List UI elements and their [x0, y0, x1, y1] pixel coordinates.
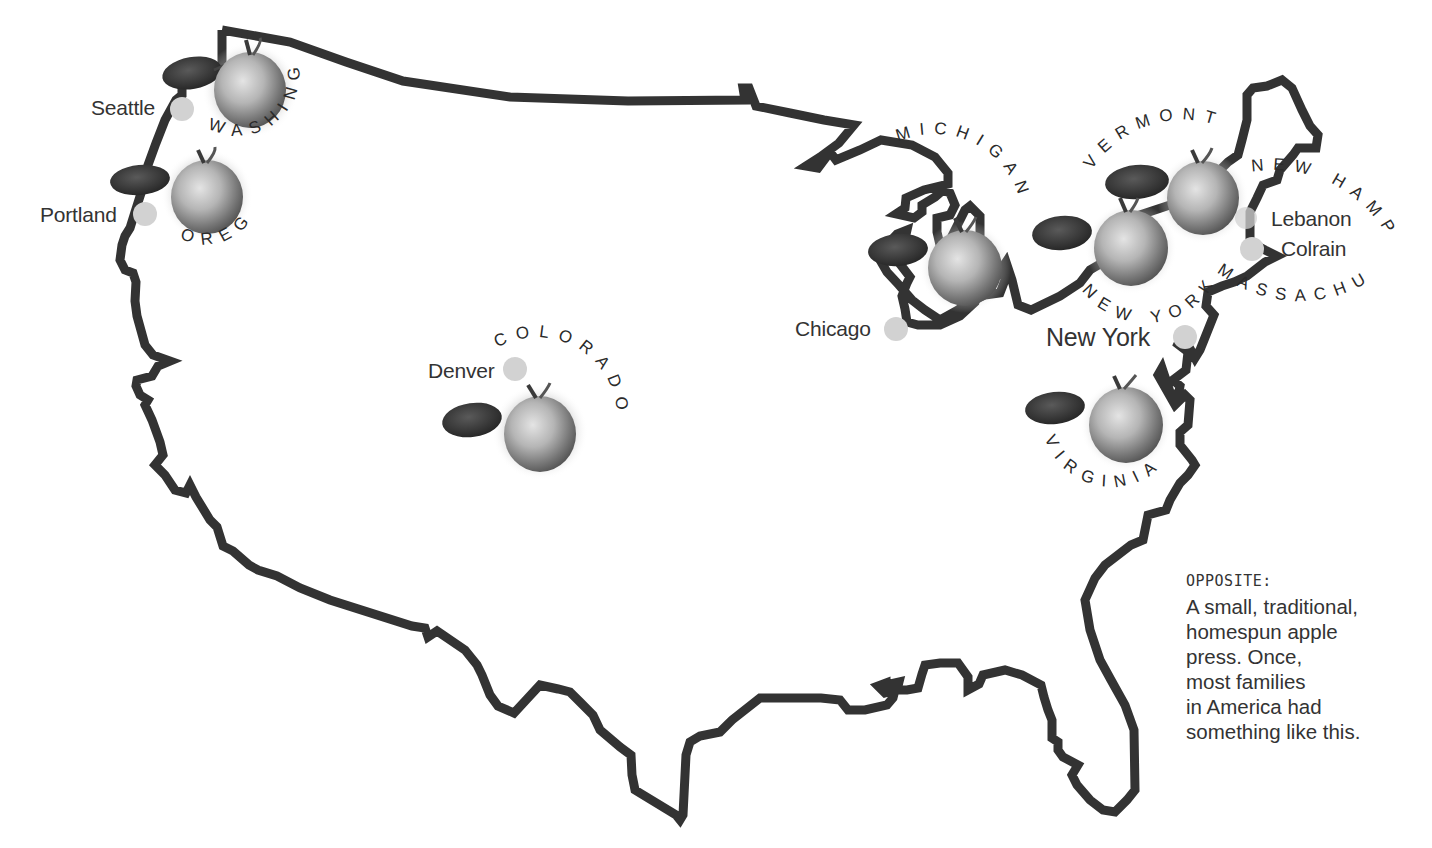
- city-label-seattle: Seattle: [91, 97, 155, 118]
- caption-line: in America had: [1186, 694, 1426, 719]
- city-label-lebanon: Lebanon: [1271, 208, 1351, 229]
- city-dot-chicago: [884, 317, 908, 341]
- caption-line: most families: [1186, 669, 1426, 694]
- apple-colorado: [440, 383, 588, 480]
- city-label-colrain: Colrain: [1281, 238, 1346, 259]
- caption-line: press. Once,: [1186, 644, 1426, 669]
- apple-michigan: [867, 217, 1011, 313]
- city-label-portland: Portland: [40, 204, 117, 225]
- city-dot-new-york: [1173, 325, 1197, 349]
- city-label-new-york: New York: [1046, 325, 1150, 350]
- caption-line: A small, traditional,: [1186, 594, 1426, 619]
- apple-new-york: [1031, 198, 1177, 294]
- city-dot-lebanon: [1235, 207, 1257, 229]
- caption-line: something like this.: [1186, 719, 1426, 744]
- city-label-denver: Denver: [428, 360, 495, 381]
- city-dot-colrain: [1240, 237, 1264, 261]
- city-label-chicago: Chicago: [795, 318, 871, 339]
- caption-body: A small, traditional, homespun apple pre…: [1186, 594, 1426, 744]
- city-dot-denver: [503, 357, 527, 381]
- caption: OPPOSITE: A small, traditional, homespun…: [1186, 572, 1426, 744]
- caption-line: homespun apple: [1186, 619, 1426, 644]
- caption-heading: OPPOSITE:: [1186, 572, 1426, 590]
- city-dot-portland: [133, 202, 157, 226]
- city-dot-seattle: [170, 97, 194, 121]
